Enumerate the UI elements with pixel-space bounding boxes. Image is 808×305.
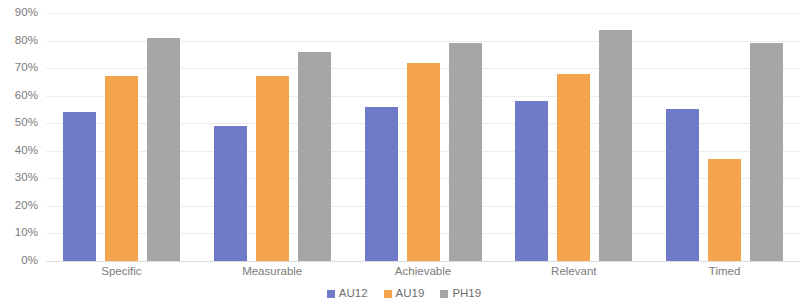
bar-au19-achievable[interactable] [407,63,440,261]
bar-au19-timed[interactable] [708,159,741,261]
y-axis-tick-label: 50% [0,117,38,129]
y-axis-tick-label: 0% [0,255,38,267]
bar-ph19-specific[interactable] [147,38,180,261]
x-axis-line [46,261,800,262]
legend-item-au19[interactable]: AU19 [384,288,425,300]
legend-label: PH19 [452,288,481,300]
legend-swatch-icon [384,290,392,298]
x-axis-label-timed: Timed [649,265,800,279]
bar-group-measurable [214,13,331,261]
legend-swatch-icon [440,290,448,298]
plot-area [46,13,800,261]
bar-au12-relevant[interactable] [515,101,548,261]
legend-swatch-icon [327,290,335,298]
x-axis-label-relevant: Relevant [498,265,649,279]
bar-au12-achievable[interactable] [365,107,398,261]
x-axis-category-labels: SpecificMeasurableAchievableRelevantTime… [46,265,800,285]
legend-label: AU12 [339,288,368,300]
x-axis-label-specific: Specific [46,265,197,279]
bar-ph19-timed[interactable] [750,43,783,261]
legend-item-au12[interactable]: AU12 [327,288,368,300]
y-axis-tick-label: 90% [0,7,38,19]
legend-item-ph19[interactable]: PH19 [440,288,481,300]
bar-ph19-relevant[interactable] [599,30,632,261]
bar-au12-specific[interactable] [63,112,96,261]
y-axis-tick-label: 60% [0,90,38,102]
y-axis-tick-label: 80% [0,35,38,47]
x-axis-label-achievable: Achievable [348,265,499,279]
bar-au19-measurable[interactable] [256,76,289,261]
chart-legend: AU12AU19PH19 [0,288,808,300]
x-axis-label-measurable: Measurable [197,265,348,279]
bar-au12-measurable[interactable] [214,126,247,261]
y-axis: 90%80%70%60%50%40%30%20%10%0% [0,0,44,275]
y-axis-tick-label: 30% [0,172,38,184]
bar-au19-specific[interactable] [105,76,138,261]
y-axis-tick-label: 10% [0,227,38,239]
bar-group-specific [63,13,180,261]
y-axis-tick-label: 40% [0,145,38,157]
legend-label: AU19 [396,288,425,300]
bar-au19-relevant[interactable] [557,74,590,261]
bar-group-achievable [365,13,482,261]
bar-au12-timed[interactable] [666,109,699,261]
bar-ph19-achievable[interactable] [449,43,482,261]
bar-group-timed [666,13,783,261]
bar-ph19-measurable[interactable] [298,52,331,261]
y-axis-tick-label: 70% [0,62,38,74]
bar-group-relevant [515,13,632,261]
bar-chart: 90%80%70%60%50%40%30%20%10%0% SpecificMe… [0,0,808,305]
y-axis-tick-label: 20% [0,200,38,212]
